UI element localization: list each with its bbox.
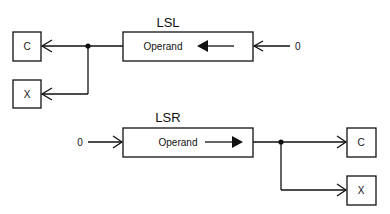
lsl-carry-label: C bbox=[23, 41, 30, 52]
lsr-shift-right-arrow-icon bbox=[232, 136, 243, 148]
lsr-input-value: 0 bbox=[77, 137, 83, 148]
lsr-title: LSR bbox=[155, 110, 180, 125]
lsr-junction-dot bbox=[278, 139, 283, 144]
shift-diagram: LSL Operand 0 C X LSR Operand 0 C X bbox=[0, 0, 390, 214]
lsl-operand-label: Operand bbox=[144, 41, 183, 52]
lsl-input-value: 0 bbox=[295, 41, 301, 52]
lsl-title: LSL bbox=[156, 15, 179, 30]
lsr-operand-label: Operand bbox=[159, 137, 198, 148]
lsl-shift-left-arrow-icon bbox=[197, 40, 208, 52]
lsr-carry-label: C bbox=[357, 137, 364, 148]
lsr-extend-label: X bbox=[358, 185, 365, 196]
lsl-junction-dot bbox=[85, 43, 90, 48]
lsl-extend-label: X bbox=[24, 89, 31, 100]
